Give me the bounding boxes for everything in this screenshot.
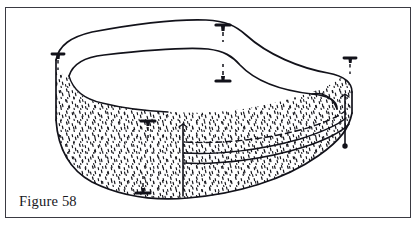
pin-top-right — [344, 58, 356, 74]
figure-caption: Figure 58 — [19, 193, 77, 210]
tuft-dot-right — [342, 143, 347, 148]
figure-page: Figure 58 — [0, 0, 420, 231]
